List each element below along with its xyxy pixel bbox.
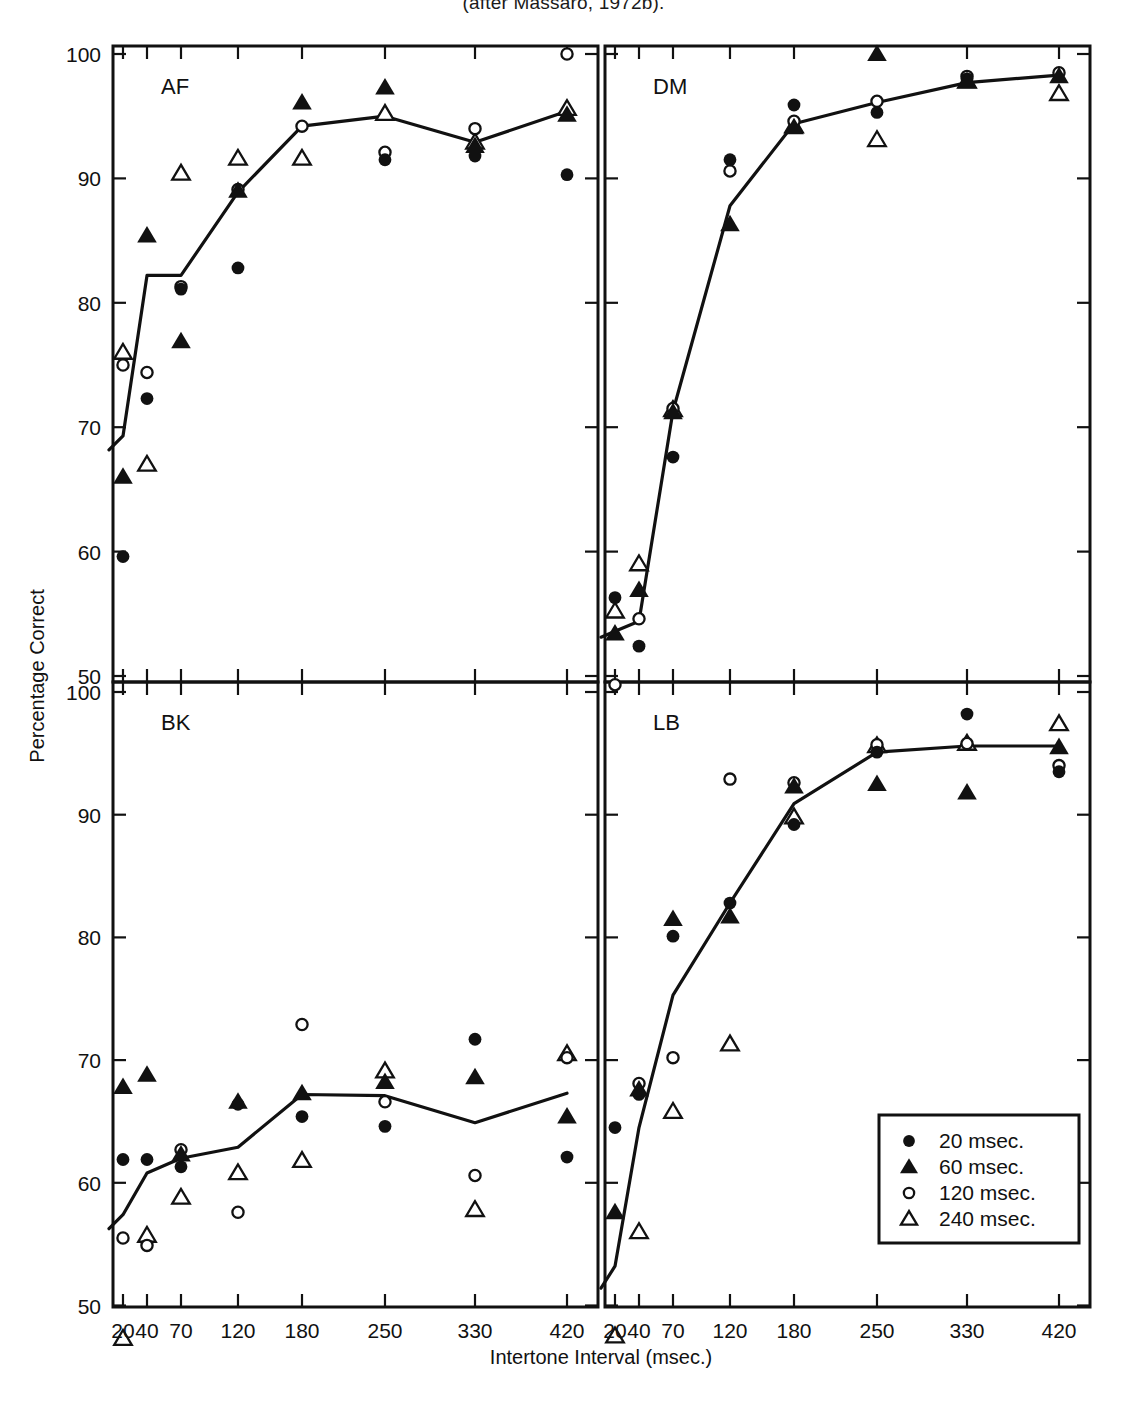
- x-axis-tick-label: 330: [457, 1319, 492, 1342]
- data-point-open-circle: [904, 1188, 914, 1198]
- x-axis-tick-label: 420: [549, 1319, 584, 1342]
- data-point-filled-circle: [379, 1120, 392, 1133]
- data-point-filled-circle: [667, 451, 680, 464]
- data-point-filled-triangle: [557, 1107, 577, 1124]
- y-axis-tick-label: 80: [78, 926, 101, 949]
- data-point-open-circle: [724, 774, 735, 785]
- legend-label: 60 msec.: [939, 1155, 1024, 1178]
- data-point-filled-triangle: [605, 1203, 625, 1220]
- data-point-open-circle: [871, 96, 882, 107]
- x-axis-tick-label: 40: [627, 1319, 650, 1342]
- data-point-filled-circle: [561, 1151, 574, 1164]
- x-axis-tick-label: 180: [284, 1319, 319, 1342]
- data-point-filled-triangle: [465, 1068, 485, 1085]
- data-point-filled-triangle: [784, 118, 804, 135]
- data-point-filled-triangle: [663, 909, 683, 926]
- x-axis-title: Intertone Interval (msec.): [490, 1346, 712, 1368]
- data-point-filled-triangle: [957, 783, 977, 800]
- y-axis-tick-label: 70: [78, 1049, 101, 1072]
- data-point-open-triangle: [293, 150, 311, 165]
- data-point-filled-circle: [609, 1121, 622, 1134]
- legend-label: 120 msec.: [939, 1181, 1036, 1204]
- data-point-filled-circle: [871, 106, 884, 119]
- data-point-filled-triangle: [629, 1080, 649, 1097]
- data-point-filled-circle: [175, 1160, 188, 1173]
- y-axis-tick-label: 100: [66, 43, 101, 66]
- data-point-open-circle: [609, 679, 620, 690]
- data-point-open-triangle: [868, 131, 886, 146]
- mean-curve-dm: [601, 75, 1059, 637]
- y-axis-tick-label: 80: [78, 292, 101, 315]
- x-axis-tick-label: 250: [859, 1319, 894, 1342]
- data-point-filled-circle: [788, 818, 801, 831]
- y-axis-tick-label: 90: [78, 167, 101, 190]
- x-axis-tick-label: 20: [111, 1319, 134, 1342]
- y-axis-tick-label: 60: [78, 1172, 101, 1195]
- panel-data-dm: [601, 44, 1069, 690]
- data-point-open-triangle: [1050, 715, 1068, 730]
- data-point-open-circle: [561, 48, 572, 59]
- x-axis-tick-label: 40: [135, 1319, 158, 1342]
- panel-label-af: AF: [161, 74, 189, 99]
- data-point-filled-circle: [871, 746, 884, 759]
- legend-label: 20 msec.: [939, 1129, 1024, 1152]
- data-point-filled-triangle: [113, 1077, 133, 1094]
- data-point-open-triangle: [606, 603, 624, 618]
- data-point-filled-circle: [609, 591, 622, 604]
- y-axis-tick-label: 90: [78, 804, 101, 827]
- figure-root: (after Massaro, 1972b). 5060708090100506…: [0, 0, 1127, 1407]
- data-point-open-circle: [296, 121, 307, 132]
- data-point-filled-circle: [1053, 765, 1066, 778]
- data-point-filled-circle: [232, 262, 245, 275]
- data-point-filled-triangle: [137, 226, 157, 243]
- data-point-open-triangle: [172, 1189, 190, 1204]
- y-axis-tick-label: 70: [78, 416, 101, 439]
- data-point-open-triangle: [1050, 85, 1068, 100]
- data-point-filled-circle: [724, 153, 737, 166]
- data-point-filled-circle: [117, 1153, 130, 1166]
- data-point-open-circle: [633, 613, 644, 624]
- data-point-open-triangle: [114, 344, 132, 359]
- data-point-filled-triangle: [957, 72, 977, 89]
- x-axis-tick-label: 70: [169, 1319, 192, 1342]
- plot-canvas: 5060708090100506070809010020407012018025…: [0, 0, 1127, 1407]
- data-point-open-triangle: [229, 1164, 247, 1179]
- panel-label-dm: DM: [653, 74, 687, 99]
- data-point-filled-triangle: [171, 1145, 191, 1162]
- data-point-open-circle: [667, 1052, 678, 1063]
- data-point-filled-triangle: [292, 1084, 312, 1101]
- panel-frame-af: [113, 46, 598, 682]
- y-axis-tick-label: 50: [78, 1295, 101, 1318]
- panel-label-lb: LB: [653, 710, 680, 735]
- data-point-open-triangle: [229, 150, 247, 165]
- y-axis-title: Percentage Correct: [26, 589, 48, 763]
- data-point-filled-triangle: [867, 774, 887, 791]
- legend-group: 20 msec.60 msec.120 msec.240 msec.: [879, 1115, 1079, 1243]
- data-point-filled-triangle: [137, 1065, 157, 1082]
- data-point-open-triangle: [172, 165, 190, 180]
- panel-frame-bk: [113, 682, 598, 1307]
- data-point-filled-triangle: [113, 467, 133, 484]
- data-point-open-circle: [141, 1240, 152, 1251]
- data-point-filled-triangle: [605, 624, 625, 641]
- x-axis-tick-label: 120: [220, 1319, 255, 1342]
- data-point-filled-circle: [667, 930, 680, 943]
- data-point-filled-circle: [469, 1033, 482, 1046]
- x-axis-tick-label: 330: [949, 1319, 984, 1342]
- x-axis-tick-label: 180: [776, 1319, 811, 1342]
- data-point-filled-circle: [117, 550, 130, 563]
- data-point-filled-circle: [175, 283, 188, 296]
- data-point-open-circle: [141, 367, 152, 378]
- data-point-filled-triangle: [292, 93, 312, 110]
- data-point-filled-circle: [903, 1135, 915, 1147]
- data-point-filled-circle: [788, 99, 801, 112]
- data-point-filled-triangle: [720, 215, 740, 232]
- data-point-filled-circle: [141, 392, 154, 405]
- data-point-open-circle: [117, 359, 128, 370]
- panel-data-lb: [601, 708, 1069, 1343]
- legend-label: 240 msec.: [939, 1207, 1036, 1230]
- data-point-open-triangle: [293, 1152, 311, 1167]
- data-point-open-triangle: [664, 1103, 682, 1118]
- data-point-open-circle: [232, 1207, 243, 1218]
- data-point-open-triangle: [466, 1201, 484, 1216]
